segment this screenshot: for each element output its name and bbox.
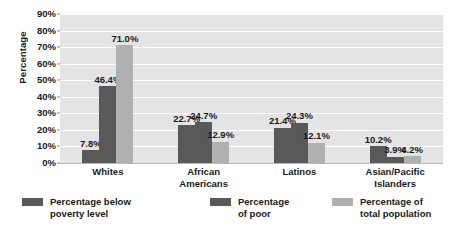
y-axis-tick-mark <box>57 129 60 130</box>
y-axis-tick-labels: 0%10%20%30%40%50%60%70%80%90% <box>12 14 56 163</box>
y-axis-tick-label: 40% <box>12 92 56 102</box>
x-axis-category-label: Whites <box>60 166 156 178</box>
y-axis-tick-mark <box>57 63 60 64</box>
y-axis-tick-label: 50% <box>12 75 56 85</box>
y-axis-tick-mark <box>57 146 60 147</box>
bar-slot: 12.1% <box>308 14 325 163</box>
legend-swatch <box>332 198 353 206</box>
y-axis-tick-mark <box>57 113 60 114</box>
bar-slot: 10.2% <box>370 14 387 163</box>
bar-slot: 7.8% <box>82 14 99 163</box>
legend-label: Percentage of poor <box>238 196 289 219</box>
legend-item[interactable]: Percentage of poor <box>210 196 289 219</box>
bar-group: 7.8%46.4%71.0% <box>82 14 133 163</box>
y-axis-tick-label: 10% <box>12 142 56 152</box>
bar-value-label: 12.1% <box>303 131 330 141</box>
bar-slot: 3.9% <box>387 14 404 163</box>
bar-group: 22.7%24.7%12.9% <box>178 14 229 163</box>
bar-slot: 22.7% <box>178 14 195 163</box>
bar[interactable] <box>212 142 229 163</box>
x-axis-category-label: Latinos <box>252 166 348 178</box>
legend-label: Percentage of total population <box>360 196 431 219</box>
x-axis-category-label: AfricanAmericans <box>156 166 252 189</box>
y-axis-tick-label: 30% <box>12 109 56 119</box>
bar-slot: 4.2% <box>404 14 421 163</box>
legend-swatch <box>22 198 43 206</box>
legend-item[interactable]: Percentage below poverty level <box>22 196 131 219</box>
bar-slot: 12.9% <box>212 14 229 163</box>
legend-label: Percentage below poverty level <box>50 196 131 219</box>
bar-groups: 7.8%46.4%71.0%22.7%24.7%12.9%21.4%24.3%1… <box>60 14 443 163</box>
bar-slot: 21.4% <box>274 14 291 163</box>
legend-item[interactable]: Percentage of total population <box>332 196 431 219</box>
bar[interactable] <box>178 125 195 163</box>
plot-area: 7.8%46.4%71.0%22.7%24.7%12.9%21.4%24.3%1… <box>60 14 443 163</box>
bar-value-label: 4.2% <box>401 145 423 155</box>
y-axis-tick-mark <box>57 47 60 48</box>
bar-chart: Percentage 0%10%20%30%40%50%60%70%80%90%… <box>0 0 453 228</box>
y-axis-tick-label: 90% <box>12 9 56 19</box>
y-axis-tick-mark <box>57 96 60 97</box>
bar-group: 21.4%24.3%12.1% <box>274 14 325 163</box>
y-axis-tick-mark <box>57 80 60 81</box>
y-axis-tick-label: 70% <box>12 42 56 52</box>
y-axis-tick-label: 20% <box>12 125 56 135</box>
y-axis-tick-label: 60% <box>12 59 56 69</box>
legend-swatch <box>210 198 231 206</box>
bar[interactable] <box>116 45 133 163</box>
bar[interactable] <box>308 143 325 163</box>
x-axis-category-labels: WhitesAfricanAmericansLatinosAsian/Pacif… <box>60 166 443 192</box>
bar-group: 10.2%3.9%4.2% <box>370 14 421 163</box>
bar[interactable] <box>291 123 308 163</box>
bar-value-label: 12.9% <box>207 130 234 140</box>
bar-value-label: 71.0% <box>111 34 138 44</box>
bar[interactable] <box>274 128 291 163</box>
y-axis-tick-label: 0% <box>12 158 56 168</box>
y-axis-tick-mark <box>57 163 60 164</box>
y-axis-tick-mark <box>57 30 60 31</box>
bar[interactable] <box>404 156 421 163</box>
x-axis-line <box>60 163 443 164</box>
bar-slot: 24.7% <box>195 14 212 163</box>
bar-slot: 71.0% <box>116 14 133 163</box>
chart-legend: Percentage below poverty levelPercentage… <box>22 196 442 226</box>
bar[interactable] <box>82 150 99 163</box>
bar[interactable] <box>99 86 116 163</box>
y-axis-tick-label: 80% <box>12 26 56 36</box>
y-axis-tick-mark <box>57 14 60 15</box>
x-axis-category-label: Asian/PacificIslanders <box>347 166 443 189</box>
